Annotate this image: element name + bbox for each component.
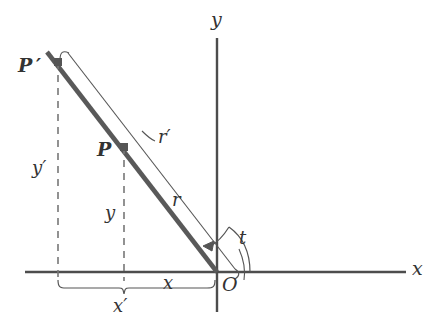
segment-label-r: r	[172, 191, 181, 209]
point-marker-P-prime	[54, 58, 62, 66]
segment-label-x-prime: x′	[113, 297, 127, 315]
angle-label-t: t	[239, 229, 246, 247]
point-marker-P	[120, 143, 128, 151]
point-label-P-prime: P ′	[18, 56, 41, 75]
segment-label-y-prime: y′	[32, 159, 46, 177]
x-prime-bracket	[58, 280, 215, 294]
angle-arc-secondary	[239, 249, 245, 280]
segment-label-x: x	[163, 274, 173, 292]
polar-coordinates-diagram: y x O P ′ P r′ r y′ y x x′ t	[0, 0, 441, 332]
y-axis-label: y	[211, 10, 222, 29]
origin-label: O	[222, 275, 238, 294]
segment-label-r-prime: r′	[158, 128, 171, 146]
diagram-canvas	[0, 0, 441, 332]
x-axis-label: x	[412, 259, 423, 278]
segment-label-y: y	[105, 204, 115, 222]
r-prime-bracket-tick	[142, 131, 155, 141]
angle-arc-arrowhead	[203, 241, 214, 251]
point-label-P: P	[97, 140, 111, 159]
r-prime-bracket-spine	[68, 53, 235, 269]
ray-line	[47, 52, 217, 272]
